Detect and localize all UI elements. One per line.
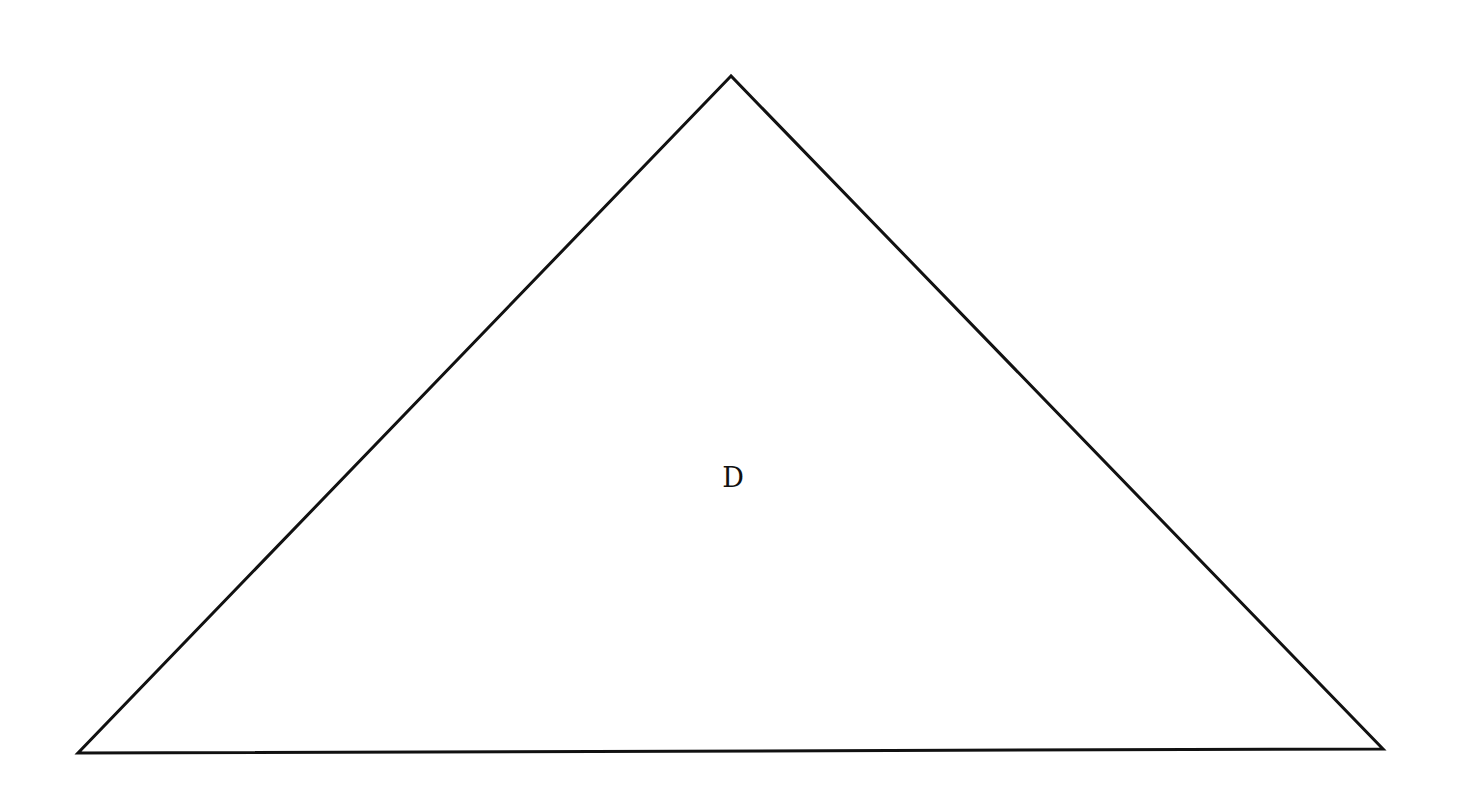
triangle-diagram: D — [0, 0, 1465, 809]
triangle-shape — [78, 76, 1383, 753]
triangle-label: D — [722, 462, 744, 493]
